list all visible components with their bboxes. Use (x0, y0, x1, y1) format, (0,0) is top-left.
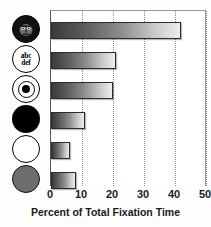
bar-black-circle (51, 112, 85, 129)
bar-bullseye-target (51, 82, 113, 99)
category-icon-cell-black (4, 104, 48, 134)
icon-text-line-2: def (21, 59, 30, 66)
bar-face-stimulus (51, 22, 181, 39)
x-tick-label-10: 10 (75, 188, 87, 200)
x-tick-label-30: 30 (137, 188, 149, 200)
bullseye-icon (12, 75, 40, 103)
gray-circle-icon (12, 165, 40, 193)
x-axis-title: Percent of Total Fixation Time (0, 206, 211, 218)
x-tick-label-20: 20 (106, 188, 118, 200)
category-icon-cell-bullseye (4, 74, 48, 104)
x-axis-tick-labels: 01020304050 (50, 188, 206, 202)
category-icon-column: abc def (4, 8, 48, 188)
bullseye-center-icon (22, 85, 30, 93)
gridline-50 (206, 11, 207, 186)
category-icon-cell-white (4, 134, 48, 164)
text-abc-def-icon: abc def (12, 45, 40, 73)
black-circle-icon (12, 105, 40, 133)
x-tick-label-50: 50 (199, 188, 211, 200)
bar-gray-circle (51, 172, 76, 189)
face-icon (12, 15, 40, 43)
plot-area (50, 10, 206, 186)
fixation-time-bar-chart: abc def 01020304050 Percent of Total Fix… (0, 0, 211, 227)
x-tick-label-0: 0 (47, 188, 53, 200)
white-circle-icon (12, 135, 40, 163)
bar-white-circle (51, 142, 70, 159)
x-tick-label-40: 40 (168, 188, 180, 200)
category-icon-cell-face (4, 14, 48, 44)
category-icon-cell-text: abc def (4, 44, 48, 74)
bar-abc-def-text (51, 52, 116, 69)
category-icon-cell-gray (4, 164, 48, 194)
